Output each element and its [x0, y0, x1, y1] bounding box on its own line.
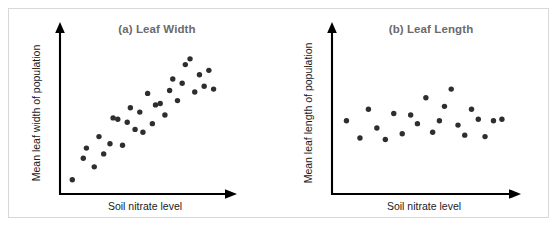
data-point: [383, 137, 388, 142]
data-point: [499, 117, 504, 122]
data-point: [442, 104, 447, 109]
data-point: [101, 151, 106, 156]
chart-panel-leaf-width: (a) Leaf Width Mean leaf width of popula…: [9, 9, 279, 217]
data-point: [476, 117, 481, 122]
data-point: [120, 143, 125, 148]
panel-a-title: (a) Leaf Width: [118, 23, 195, 35]
panel-b-axes: [327, 22, 521, 199]
data-point: [107, 141, 112, 146]
x-axis-arrow-icon-b: [509, 189, 521, 199]
panel-a-y-axis-label: Mean leaf width of population: [30, 45, 42, 182]
data-point: [167, 88, 172, 93]
panel-b-title: (b) Leaf Length: [389, 23, 474, 35]
data-point: [125, 120, 130, 125]
data-point: [92, 164, 97, 169]
data-point: [449, 86, 454, 91]
x-axis-arrow-icon-a: [225, 189, 237, 199]
panel-a-axes: [55, 22, 237, 199]
data-point: [132, 127, 137, 132]
data-point: [469, 107, 474, 112]
chart-panel-leaf-length: (b) Leaf Length Mean leaf length of popu…: [279, 9, 549, 217]
data-point: [400, 131, 405, 136]
data-point: [158, 101, 163, 106]
data-point: [437, 118, 442, 123]
data-point: [491, 118, 496, 123]
y-axis-arrow-icon-b: [327, 22, 337, 33]
data-point: [128, 105, 133, 110]
data-point: [206, 68, 211, 73]
data-point: [145, 91, 150, 96]
data-point: [374, 125, 379, 130]
data-point: [344, 118, 349, 123]
data-point: [96, 134, 101, 139]
data-point: [137, 109, 142, 114]
data-point: [179, 81, 184, 86]
data-point: [430, 130, 435, 135]
scatter-plot-b-svg: (b) Leaf Length Mean leaf length of popu…: [279, 9, 549, 217]
data-point: [84, 145, 89, 150]
data-point: [187, 56, 192, 61]
data-point: [81, 156, 86, 161]
data-point: [70, 177, 75, 182]
data-point: [391, 111, 396, 116]
data-point: [415, 121, 420, 126]
panel-a-data-points: [70, 56, 217, 182]
y-axis-arrow-icon-a: [55, 22, 65, 33]
data-point: [175, 98, 180, 103]
data-point: [183, 62, 188, 67]
data-point: [455, 122, 460, 127]
scatter-plot-a-svg: (a) Leaf Width Mean leaf width of popula…: [9, 9, 279, 217]
data-point: [408, 112, 413, 117]
data-point: [197, 72, 202, 77]
data-point: [423, 95, 428, 100]
panel-b-y-axis-label: Mean leaf length of population: [302, 43, 314, 184]
panel-b-data-points: [344, 86, 505, 142]
panel-b-x-axis-label: Soil nitrate level: [387, 200, 461, 212]
data-point: [153, 102, 158, 107]
data-point: [366, 107, 371, 112]
data-point: [150, 121, 155, 126]
data-point: [482, 134, 487, 139]
panel-a-x-axis-label: Soil nitrate level: [108, 200, 182, 212]
data-point: [357, 135, 362, 140]
data-point: [162, 112, 167, 117]
data-point: [140, 130, 145, 135]
data-point: [192, 89, 197, 94]
figure-frame: (a) Leaf Width Mean leaf width of popula…: [8, 8, 549, 218]
data-point: [115, 117, 120, 122]
data-point: [201, 84, 206, 89]
data-point: [110, 115, 115, 120]
data-point: [462, 132, 467, 137]
data-point: [170, 76, 175, 81]
data-point: [211, 86, 216, 91]
